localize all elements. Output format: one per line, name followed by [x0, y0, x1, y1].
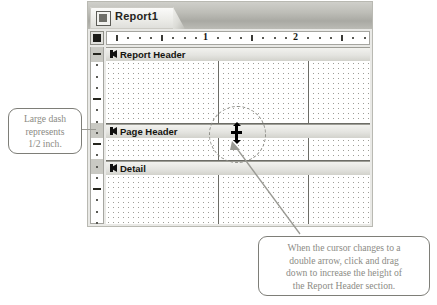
vruler-minor-tick — [96, 199, 98, 201]
select-all-button[interactable] — [90, 31, 104, 45]
hruler-minor-tick — [319, 37, 321, 39]
section-bar-detail[interactable]: Detail — [106, 161, 370, 176]
leader-line-left — [82, 129, 96, 130]
vruler-major-tick — [93, 98, 101, 100]
document-tab-label: Report1 — [115, 10, 158, 22]
callout-left-line-3: 1/2 inch. — [9, 138, 81, 151]
callout-bottom-line-1: When the cursor changes to a — [259, 242, 429, 255]
report-document-icon — [96, 11, 111, 26]
section-flag-icon — [110, 127, 117, 135]
hruler-minor-tick — [150, 37, 152, 39]
vruler-minor-tick — [96, 64, 98, 66]
vertical-double-arrow-resize-cursor[interactable] — [231, 122, 242, 144]
section-label-page-header: Page Header — [120, 126, 178, 137]
vruler-major-tick — [93, 143, 101, 145]
hruler-major-tick — [116, 35, 118, 41]
vruler-minor-tick — [96, 211, 98, 213]
hruler-minor-tick — [127, 37, 129, 39]
vruler-band-page-header — [91, 123, 103, 138]
grid-vline — [308, 175, 309, 224]
horizontal-ruler[interactable]: 12 — [106, 31, 370, 45]
hruler-minor-tick — [229, 37, 231, 39]
hruler-minor-tick — [139, 37, 141, 39]
hruler-minor-tick — [240, 37, 242, 39]
hruler-minor-tick — [330, 37, 332, 39]
hruler-minor-tick — [172, 37, 174, 39]
vruler-major-tick — [93, 188, 101, 190]
hruler-minor-tick — [217, 37, 219, 39]
callout-left-line-2: represents — [9, 126, 81, 139]
grid-vline — [308, 138, 309, 160]
hruler-minor-tick — [352, 37, 354, 39]
hruler-major-tick — [251, 35, 253, 41]
screenshot-stage: Report1 12 Report Header — [0, 0, 437, 305]
select-all-box-icon — [93, 34, 101, 42]
callout-left-line-1: Large dash — [9, 113, 81, 126]
section-label-report-header: Report Header — [120, 49, 185, 60]
grid-vline — [218, 175, 219, 224]
vruler-minor-tick — [96, 121, 98, 123]
vruler-minor-tick — [96, 132, 98, 134]
section-flag-icon — [110, 50, 117, 58]
callout-bottom-line-3: down to increase the height of — [259, 267, 429, 280]
vruler-minor-tick — [96, 76, 98, 78]
vruler-minor-tick — [96, 222, 98, 224]
hruler-major-tick — [341, 35, 343, 41]
hruler-minor-tick — [184, 37, 186, 39]
vruler-minor-tick — [96, 177, 98, 179]
hruler-minor-tick — [285, 37, 287, 39]
hruler-minor-tick — [262, 37, 264, 39]
callout-bottom-line-2: double arrow, click and drag — [259, 255, 429, 268]
hruler-major-tick — [161, 35, 163, 41]
window-titlebar: Report1 — [88, 2, 372, 29]
vruler-minor-tick — [96, 154, 98, 156]
hruler-minor-tick — [274, 37, 276, 39]
section-canvas-detail[interactable] — [106, 175, 370, 224]
callout-left-text: Large dash represents 1/2 inch. — [8, 108, 82, 154]
vruler-minor-tick — [96, 109, 98, 111]
hruler-unit-label: 2 — [293, 31, 298, 42]
grid-vline — [308, 61, 309, 123]
callout-bottom-text: When the cursor changes to a double arro… — [258, 236, 430, 296]
cursor-crossbar — [231, 131, 242, 134]
section-flag-icon — [110, 164, 117, 172]
document-tab-report1[interactable]: Report1 — [90, 7, 174, 29]
vruler-minor-tick — [96, 166, 98, 168]
hruler-minor-tick — [307, 37, 309, 39]
vruler-major-tick — [93, 53, 101, 55]
vertical-ruler[interactable] — [90, 47, 104, 224]
hruler-minor-tick — [364, 37, 366, 39]
hruler-minor-tick — [195, 37, 197, 39]
hruler-unit-label: 1 — [203, 31, 208, 42]
cursor-arrow-down — [233, 140, 241, 144]
callout-bottom-line-4: the Report Header section. — [259, 280, 429, 293]
section-bar-report-header[interactable]: Report Header — [106, 47, 370, 62]
section-label-detail: Detail — [120, 163, 146, 174]
vruler-minor-tick — [96, 87, 98, 89]
